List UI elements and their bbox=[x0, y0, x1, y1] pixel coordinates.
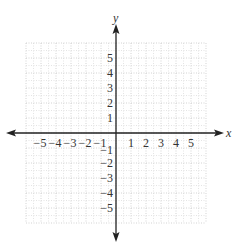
x-tick-label: 3 bbox=[158, 136, 164, 150]
y-tick-label: −2 bbox=[100, 156, 113, 170]
x-tick-label: −5 bbox=[34, 136, 47, 150]
x-axis-label: x bbox=[225, 126, 232, 140]
y-tick-label: 4 bbox=[107, 66, 113, 80]
x-tick-label: −3 bbox=[64, 136, 77, 150]
y-tick-label: −3 bbox=[100, 171, 113, 185]
x-tick-label: −2 bbox=[79, 136, 92, 150]
y-tick-label: 5 bbox=[107, 51, 113, 65]
x-tick-label: 1 bbox=[128, 136, 134, 150]
axes bbox=[6, 24, 224, 242]
y-tick-label: −5 bbox=[100, 201, 113, 215]
y-tick-label: −1 bbox=[100, 143, 113, 157]
y-tick-label: 3 bbox=[107, 81, 113, 95]
y-axis-label: y bbox=[112, 11, 119, 25]
y-tick-label: −4 bbox=[100, 186, 113, 200]
x-tick-label: 4 bbox=[173, 136, 179, 150]
y-tick-label: 2 bbox=[107, 96, 113, 110]
coordinate-plane: x y −5−4−3−2−112345 54321−1−2−3−4−5 bbox=[0, 0, 242, 249]
x-tick-label: 5 bbox=[188, 136, 194, 150]
y-tick-label: 1 bbox=[107, 111, 113, 125]
x-tick-label: 2 bbox=[143, 136, 149, 150]
x-tick-label: −4 bbox=[49, 136, 62, 150]
